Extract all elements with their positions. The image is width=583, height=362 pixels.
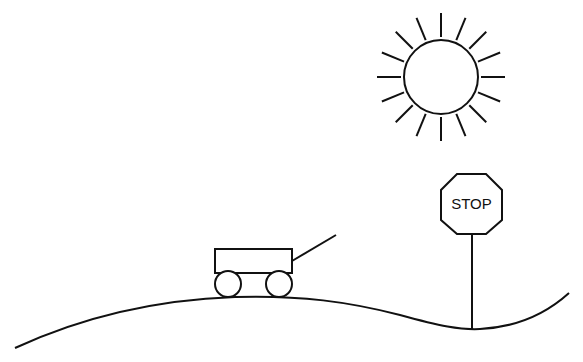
sun-ray	[478, 92, 500, 101]
sun-ray	[382, 53, 404, 62]
sun-ray	[417, 18, 426, 40]
sun-disc	[404, 40, 478, 114]
drawing-canvas: STOP	[0, 0, 583, 362]
stop-sign-label: STOP	[451, 195, 492, 212]
stop-sign: STOP	[441, 174, 502, 329]
wagon-wheel-left	[215, 271, 241, 297]
wagon-wheel-right	[266, 271, 292, 297]
sun-ray	[456, 18, 465, 40]
sun-ray	[469, 105, 486, 122]
wagon-handle	[292, 235, 336, 261]
sun-ray	[469, 32, 486, 49]
sun-icon	[377, 13, 505, 141]
sun-ray	[382, 92, 404, 101]
sun-rays	[377, 13, 505, 141]
hill-curve	[15, 293, 569, 348]
sun-ray	[456, 114, 465, 136]
sun-ray	[417, 114, 426, 136]
wagon-box	[215, 249, 292, 273]
wagon	[215, 235, 336, 297]
sun-ray	[396, 105, 413, 122]
sun-ray	[478, 53, 500, 62]
sun-ray	[396, 32, 413, 49]
